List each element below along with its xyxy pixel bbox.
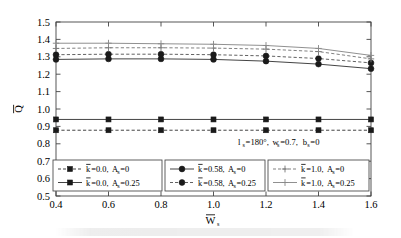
legend-a-value: =0.25	[120, 179, 139, 188]
x-tick-label: 0.8	[154, 199, 167, 210]
y-tick-label: 1.1	[37, 86, 50, 97]
legend-k-value: =0.0,	[91, 179, 108, 188]
y-tick-label: 0.6	[37, 173, 50, 184]
marker-square	[264, 128, 269, 133]
marker-square	[369, 128, 374, 133]
marker-square	[106, 117, 111, 122]
y-tick-label: 0.9	[37, 121, 50, 132]
x-tick-label: 1.4	[312, 199, 326, 210]
legend-a-value: =0	[237, 165, 246, 174]
marker-square	[316, 117, 321, 122]
x-tick-label: 0.4	[49, 199, 63, 210]
series-1	[54, 117, 374, 122]
y-tick-label: 0.7	[37, 156, 50, 167]
x-axis-title-subscript: s	[217, 220, 220, 227]
legend-layer: k=0.0,As=0k=0.0,As=0.25k=0.58,As=0k=0.58…	[53, 160, 369, 191]
marker-square	[54, 128, 59, 133]
y-tick-label: 1.0	[37, 104, 50, 115]
marker-square	[211, 117, 216, 122]
marker-square	[68, 167, 73, 172]
chart-canvas: 0.50.60.70.80.91.01.11.21.31.41.50.40.60…	[0, 0, 401, 238]
marker-circle	[263, 53, 269, 59]
legend-group-k058: k=0.58,As=0k=0.58,As=0.25	[165, 160, 265, 191]
marker-circle	[53, 52, 59, 58]
annot-l-symbol: l	[238, 137, 241, 147]
y-tick-label: 1.3	[37, 51, 50, 62]
marker-square	[54, 117, 59, 122]
legend-a-value: =0.25	[237, 179, 256, 188]
annot-b-value: =0	[310, 137, 319, 147]
marker-square	[264, 117, 269, 122]
legend-k-value: =0.0,	[91, 165, 108, 174]
series-0	[54, 128, 374, 133]
marker-circle	[179, 180, 185, 186]
marker-square	[106, 128, 111, 133]
legend-k-value: =1.0,	[306, 179, 323, 188]
y-axis-title-text: Q	[13, 105, 24, 113]
data-layer	[53, 40, 374, 133]
figure-container: 0.50.60.70.80.91.01.11.21.31.41.50.40.60…	[0, 0, 401, 238]
legend-group-k0: k=0.0,As=0k=0.0,As=0.25	[53, 160, 162, 191]
y-axis-title: Q	[13, 105, 24, 113]
legend-k-value: =0.58,	[203, 165, 224, 174]
x-tick-label: 1.6	[364, 199, 377, 210]
y-tick-label: 1.4	[37, 34, 51, 45]
marker-circle	[316, 56, 322, 62]
x-tick-label: 1.0	[207, 199, 220, 210]
annot-l-value: =180°,	[246, 137, 269, 147]
annot-w-value: =0.7,	[280, 137, 298, 147]
y-tick-label: 1.2	[37, 69, 50, 80]
x-tick-label: 0.6	[102, 199, 115, 210]
marker-circle	[179, 166, 185, 172]
marker-square	[159, 117, 164, 122]
caption-strip	[55, 228, 355, 236]
marker-circle	[316, 61, 322, 67]
legend-a-value: =0	[120, 165, 129, 174]
y-tick-label: 1.5	[37, 17, 50, 28]
marker-square	[68, 180, 73, 185]
marker-square	[159, 128, 164, 133]
marker-circle	[106, 51, 112, 57]
y-tick-label: 0.5	[37, 191, 50, 202]
annotation-layer: ls=180°,ws=0.7,bs=0	[238, 137, 319, 148]
marker-square	[369, 117, 374, 122]
legend-a-value: =0.25	[335, 179, 354, 188]
marker-circle	[368, 66, 374, 72]
y-tick-label: 0.8	[37, 138, 50, 149]
marker-square	[316, 128, 321, 133]
series-2	[53, 56, 374, 72]
legend-k-value: =1.0,	[306, 165, 323, 174]
marker-square	[211, 128, 216, 133]
legend-group-k1: k=1.0,As=0k=1.0,As=0.25	[268, 160, 369, 191]
marker-circle	[158, 51, 164, 57]
x-tick-label: 1.2	[259, 199, 272, 210]
x-axis-title-text: W	[206, 215, 216, 226]
legend-a-value: =0	[335, 165, 344, 174]
marker-circle	[211, 52, 217, 58]
legend-k-value: =0.58,	[203, 179, 224, 188]
